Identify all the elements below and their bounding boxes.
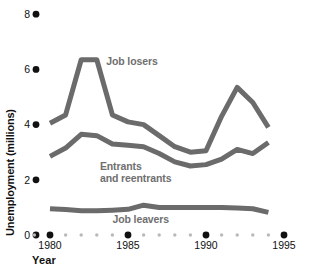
x-tick-dot-minor <box>220 233 223 236</box>
y-tick-label: 8 <box>24 8 30 20</box>
series-annotation: Job losers <box>106 55 158 67</box>
series-annotation: Entrantsand reentrants <box>100 160 172 184</box>
x-tick-label: 1995 <box>272 239 296 251</box>
x-tick-dot-minor <box>142 233 145 236</box>
x-tick-dot-major <box>281 232 288 239</box>
y-tick-label: 0 <box>24 229 30 241</box>
series-annotation: Job leavers <box>112 213 169 225</box>
x-tick-label: 1985 <box>116 239 140 251</box>
x-axis-title: Year <box>32 254 57 266</box>
y-tick-label: 2 <box>24 174 30 186</box>
x-tick-dot-minor <box>189 233 192 236</box>
x-tick-dot-minor <box>111 233 114 236</box>
x-tick-dot-minor <box>33 233 36 236</box>
x-tick-dot-minor <box>267 233 270 236</box>
x-tick-dot-minor <box>251 233 254 236</box>
x-tick-dot-minor <box>64 233 67 236</box>
x-tick-dot-major <box>203 232 210 239</box>
y-axis-ticks: 02468 <box>24 8 39 241</box>
y-tick-dot <box>33 121 40 128</box>
x-axis-ticks: 1980198519901995 <box>33 232 296 251</box>
x-tick-dot-major <box>47 232 54 239</box>
y-axis-title: Unemployment (millions) <box>4 109 16 236</box>
y-axis-title-group: Unemployment (millions) <box>4 109 16 236</box>
x-tick-dot-major <box>125 232 132 239</box>
x-tick-label: 1990 <box>194 239 218 251</box>
y-tick-dot <box>33 176 40 183</box>
y-tick-dot <box>33 66 40 73</box>
x-tick-dot-minor <box>158 233 161 236</box>
x-tick-dot-minor <box>173 233 176 236</box>
series-line <box>50 60 268 152</box>
series-line <box>50 134 268 166</box>
unemployment-line-chart: Unemployment (millions) 02468 1980198519… <box>0 0 311 274</box>
series-lines-group <box>50 60 268 213</box>
y-tick-label: 4 <box>24 118 30 130</box>
y-tick-label: 6 <box>24 63 30 75</box>
x-tick-label: 1980 <box>38 239 62 251</box>
x-tick-dot-minor <box>80 233 83 236</box>
x-tick-dot-minor <box>236 233 239 236</box>
series-line <box>50 205 268 212</box>
y-tick-dot <box>33 11 40 18</box>
x-tick-dot-minor <box>95 233 98 236</box>
chart-canvas: Unemployment (millions) 02468 1980198519… <box>0 0 311 274</box>
